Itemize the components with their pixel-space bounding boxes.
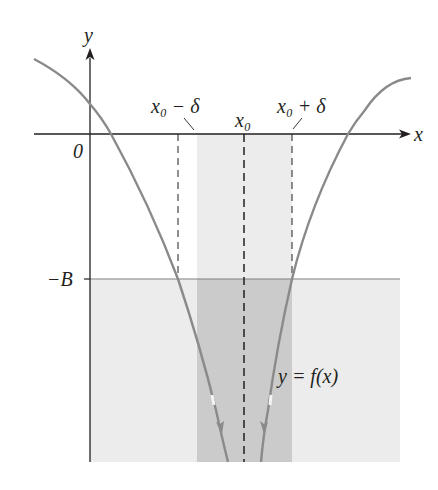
label-x0-plus-delta: x₀ + δ bbox=[276, 95, 326, 117]
infinite-limit-diagram: y x 0 x₀ − δ x₀ x₀ + δ −B y = f(x) bbox=[0, 0, 438, 490]
leader-x0-minus-delta bbox=[184, 118, 194, 130]
label-x0: x₀ bbox=[234, 109, 251, 131]
x-axis-label: x bbox=[413, 123, 423, 145]
y-axis-label: y bbox=[82, 24, 93, 47]
label-neg-B: −B bbox=[47, 268, 73, 290]
right-curve-highlight bbox=[270, 395, 271, 405]
leader-x0-plus-delta bbox=[293, 118, 302, 129]
origin-label: 0 bbox=[73, 140, 83, 162]
label-x0-minus-delta: x₀ − δ bbox=[150, 95, 200, 117]
curve-label: y = f(x) bbox=[276, 365, 338, 388]
left-curve-highlight bbox=[212, 395, 214, 405]
